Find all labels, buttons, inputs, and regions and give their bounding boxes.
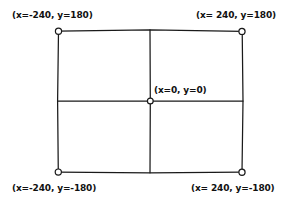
label-origin: (x=0, y=0) — [154, 85, 207, 96]
label-top-right: (x= 240, y=180) — [196, 10, 276, 21]
label-bottom-left: (x=-240, y=-180) — [12, 183, 96, 194]
coordinate-rectangle-graphic — [0, 0, 295, 209]
point-marker-bottom-left — [55, 169, 61, 175]
diagram-canvas: (x=-240, y=180) (x= 240, y=180) (x=0, y=… — [0, 0, 295, 209]
point-marker-top-right — [239, 28, 245, 34]
point-marker-bottom-right — [239, 169, 245, 175]
label-top-left: (x=-240, y=180) — [12, 10, 93, 21]
point-marker-top-left — [55, 28, 61, 34]
label-bottom-right: (x= 240, y=-180) — [191, 183, 275, 194]
rect-edge-left — [58, 31, 59, 172]
rect-edge-right — [242, 31, 243, 172]
point-marker-center — [147, 98, 153, 104]
